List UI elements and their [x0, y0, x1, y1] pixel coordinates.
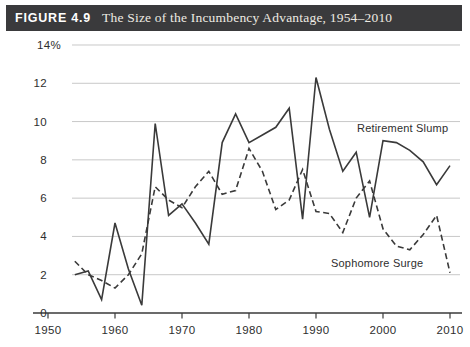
- x-tick-label-1950: 1950: [35, 324, 62, 336]
- y-tick-label-8: 8: [40, 154, 47, 166]
- x-tick-label-1970: 1970: [169, 324, 196, 336]
- x-tick-label-2010: 2010: [437, 324, 464, 336]
- y-tick-label-4: 4: [40, 230, 47, 242]
- x-tick-label-1990: 1990: [303, 324, 330, 336]
- sophomore-surge-series-label: Sophomore Surge: [331, 257, 423, 269]
- x-tick-label-1960: 1960: [102, 324, 129, 336]
- y-tick-label-2: 2: [40, 269, 47, 281]
- y-tick-label-12: 12: [34, 77, 47, 89]
- incumbency-advantage-chart: 195019601970198019902000201014%121086420: [0, 0, 470, 347]
- retirement-slump-series-label: Retirement Slump: [357, 122, 448, 134]
- figure-4-9: FIGURE 4.9 The Size of the Incumbency Ad…: [0, 0, 470, 347]
- y-tick-label-14%: 14%: [37, 39, 61, 51]
- y-tick-label-10: 10: [34, 116, 47, 128]
- x-tick-label-2000: 2000: [370, 324, 397, 336]
- y-tick-label-6: 6: [40, 192, 47, 204]
- x-tick-label-1980: 1980: [236, 324, 263, 336]
- y-tick-label-0: 0: [40, 307, 47, 319]
